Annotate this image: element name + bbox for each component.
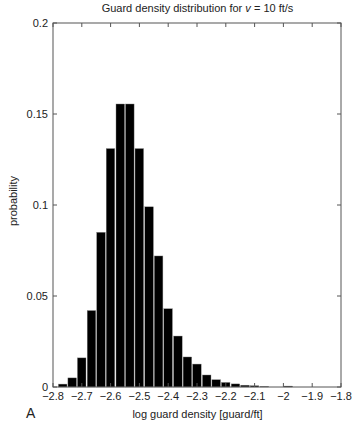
x-axis-label: log guard density [guard/ft] bbox=[53, 408, 342, 420]
histogram-bar bbox=[106, 149, 115, 387]
histogram-bar bbox=[202, 375, 211, 387]
y-tick-label: 0.05 bbox=[27, 290, 48, 302]
y-axis-label: probability bbox=[7, 166, 19, 236]
histogram-bar bbox=[68, 378, 77, 387]
histogram-bar bbox=[212, 380, 221, 387]
y-tick-label: 0.2 bbox=[33, 17, 48, 29]
histogram-bar bbox=[174, 336, 183, 387]
x-tick-label: −2.6 bbox=[100, 390, 122, 402]
histogram-bar bbox=[183, 357, 192, 387]
x-tick-label: −2.4 bbox=[157, 390, 179, 402]
histogram-bar bbox=[116, 104, 125, 387]
x-tick-label: −2.7 bbox=[71, 390, 93, 402]
histogram-bar bbox=[87, 311, 96, 387]
histogram-bar bbox=[97, 232, 106, 387]
histogram-bar bbox=[135, 149, 144, 387]
x-tick-label: −2.1 bbox=[244, 390, 266, 402]
x-tick-label: −2.3 bbox=[186, 390, 208, 402]
panel-label: A bbox=[26, 405, 35, 421]
y-tick-label: 0.1 bbox=[33, 199, 48, 211]
x-tick-label: −2.5 bbox=[129, 390, 151, 402]
histogram-bar bbox=[126, 104, 135, 387]
x-tick-label: −2.2 bbox=[215, 390, 237, 402]
plot-frame bbox=[53, 23, 341, 387]
x-tick-label: −1.8 bbox=[330, 390, 352, 402]
histogram-bar bbox=[145, 207, 154, 387]
histogram-plot: −2.8−2.7−2.6−2.5−2.4−2.3−2.2−2.1−2−1.9−1… bbox=[0, 0, 353, 427]
histogram-bar bbox=[154, 256, 163, 387]
y-tick-label: 0.15 bbox=[27, 108, 48, 120]
x-tick-label: −1.9 bbox=[301, 390, 323, 402]
x-tick-label: −2 bbox=[277, 390, 290, 402]
histogram-bar bbox=[77, 358, 86, 387]
histogram-bar bbox=[164, 309, 173, 387]
y-tick-label: 0 bbox=[42, 381, 48, 393]
